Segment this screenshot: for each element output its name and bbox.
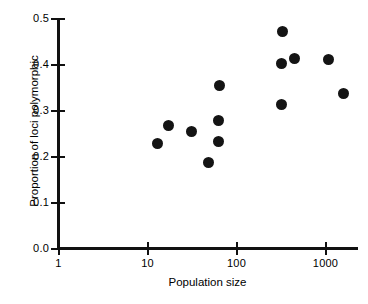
data-point xyxy=(289,53,300,64)
data-point xyxy=(323,54,334,65)
y-axis-tick-label: 0.0 xyxy=(5,243,49,254)
y-axis-tick-label-wrapper: 0.1 xyxy=(0,197,49,208)
y-axis-tick xyxy=(51,156,65,158)
y-axis-tick-label: 0.3 xyxy=(5,105,49,116)
x-axis-tick xyxy=(58,242,60,255)
data-point xyxy=(338,88,349,99)
y-axis-tick-label: 0.4 xyxy=(5,59,49,70)
x-axis-tick xyxy=(147,242,149,255)
y-axis-tick xyxy=(51,18,65,20)
y-axis-line xyxy=(57,19,60,250)
x-axis-tick-label: 100 xyxy=(207,258,267,269)
x-axis-tick-label: 1 xyxy=(29,258,89,269)
y-axis-tick-label-wrapper: 0.5 xyxy=(0,13,49,24)
data-point xyxy=(163,120,174,131)
y-axis-tick-label-wrapper: 0.2 xyxy=(0,151,49,162)
y-axis-tick xyxy=(51,202,65,204)
y-axis-tick-label: 0.5 xyxy=(5,13,49,24)
data-point xyxy=(214,80,225,91)
y-axis-tick-label-wrapper: 0.3 xyxy=(0,105,49,116)
x-axis-title: Population size xyxy=(57,276,358,288)
data-point xyxy=(276,99,287,110)
y-axis-tick xyxy=(51,110,65,112)
y-axis-tick-label: 0.2 xyxy=(5,151,49,162)
data-point xyxy=(276,58,287,69)
x-axis-tick xyxy=(325,242,327,255)
data-point xyxy=(186,126,197,137)
scatter-plot-figure: 0.00.10.20.30.40.5 1101001000 Proportion… xyxy=(0,0,368,304)
data-point xyxy=(213,136,224,147)
y-axis-title: Proportion of loci polymorphic xyxy=(28,26,40,236)
data-point xyxy=(213,115,224,126)
y-axis-tick-label: 0.1 xyxy=(5,197,49,208)
data-point xyxy=(152,138,163,149)
x-axis-tick-label: 1000 xyxy=(296,258,356,269)
y-axis-tick-label-wrapper: 0.0 xyxy=(0,243,49,254)
data-point xyxy=(277,26,288,37)
data-point xyxy=(203,157,214,168)
y-axis-tick-label-wrapper: 0.4 xyxy=(0,59,49,70)
x-axis-tick xyxy=(236,242,238,255)
y-axis-tick xyxy=(51,64,65,66)
caption-remnant xyxy=(6,295,156,302)
x-axis-tick-label: 10 xyxy=(118,258,178,269)
x-axis-line xyxy=(57,247,358,250)
